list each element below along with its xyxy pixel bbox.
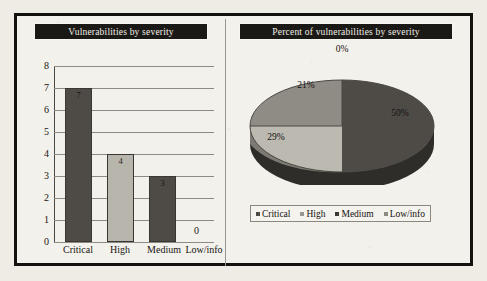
y-tick-7: 7: [44, 83, 49, 93]
pie-chart-title: Percent of vulnerabilities by severity: [240, 24, 452, 39]
x-label-low-info: Low/info: [185, 244, 222, 255]
bar-chart-panel: Vulnerabilities by severity 8 7 6 5 4 3: [20, 19, 225, 266]
bar-high[interactable]: 4: [107, 154, 134, 242]
x-label-critical: Critical: [63, 244, 93, 255]
bar-value-high: 4: [108, 157, 133, 166]
y-tick-4: 4: [44, 149, 49, 159]
pie-label-medium: 29%: [267, 132, 284, 142]
y-tick-5: 5: [44, 127, 49, 137]
y-tick-8: 8: [44, 61, 49, 71]
legend-item-high[interactable]: High: [300, 209, 325, 219]
figure-page: Vulnerabilities by severity 8 7 6 5 4 3: [0, 0, 487, 281]
y-tick-2: 2: [44, 193, 49, 203]
y-tick-3: 3: [44, 171, 49, 181]
legend-item-critical[interactable]: Critical: [256, 209, 291, 219]
bar-critical[interactable]: 7: [65, 88, 92, 242]
bar-chart-title: Vulnerabilities by severity: [35, 24, 207, 39]
gridline-0: [54, 242, 214, 243]
legend-label-low-info: Low/info: [390, 209, 425, 219]
bar-chart-plot-area: 8 7 6 5 4 3 2 1 0 7 4 3 0: [54, 66, 214, 242]
pie-legend: Critical High Medium Low/info: [250, 205, 431, 222]
legend-swatch-low-info-icon: [384, 212, 388, 216]
legend-label-medium: Medium: [341, 209, 373, 219]
y-tick-0: 0: [44, 237, 49, 247]
legend-item-medium[interactable]: Medium: [335, 209, 373, 219]
pie-svg: [248, 67, 436, 185]
legend-label-high: High: [306, 209, 325, 219]
bar-value-medium: 3: [150, 179, 175, 188]
x-label-medium: Medium: [147, 244, 181, 255]
pie-chart-graphic: 0% 21% 29% 50%: [248, 67, 436, 185]
pie-chart-panel: Percent of vulnerabilities by severity: [226, 19, 473, 266]
legend-swatch-medium-icon: [335, 212, 339, 216]
bar-value-low-info: 0: [194, 225, 199, 236]
legend-swatch-high-icon: [300, 212, 304, 216]
bar-value-critical: 7: [66, 91, 91, 100]
pie-label-low-info: 0%: [336, 44, 349, 54]
y-tick-1: 1: [44, 215, 49, 225]
legend-label-critical: Critical: [262, 209, 291, 219]
legend-item-low-info[interactable]: Low/info: [384, 209, 425, 219]
pie-label-high: 21%: [297, 80, 314, 90]
pie-label-critical: 50%: [391, 108, 408, 118]
legend-swatch-critical-icon: [256, 212, 260, 216]
figure-frame: Vulnerabilities by severity 8 7 6 5 4 3: [14, 13, 473, 266]
x-label-high: High: [110, 244, 130, 255]
y-tick-6: 6: [44, 105, 49, 115]
bar-medium[interactable]: 3: [149, 176, 176, 242]
gridline-8: [54, 66, 214, 67]
